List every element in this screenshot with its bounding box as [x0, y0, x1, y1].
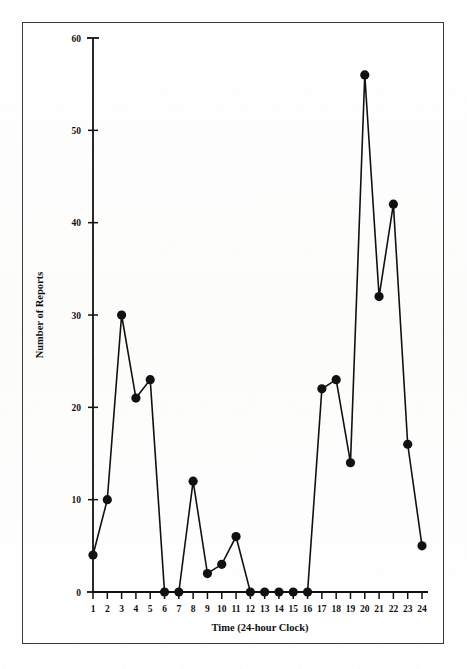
data-point-hour-23 — [403, 440, 412, 449]
y-tick-label-0: 0 — [76, 588, 81, 598]
data-point-hour-7 — [174, 587, 183, 596]
x-tick-label-12: 12 — [246, 604, 256, 614]
x-tick-label-18: 18 — [331, 604, 341, 614]
x-tick-label-8: 8 — [191, 604, 196, 614]
x-tick-label-6: 6 — [162, 604, 167, 614]
x-tick-label-9: 9 — [205, 604, 210, 614]
x-tick-label-23: 23 — [403, 604, 413, 614]
x-tick-label-21: 21 — [374, 604, 384, 614]
data-point-hour-8 — [189, 477, 198, 486]
x-tick-label-17: 17 — [317, 604, 327, 614]
data-point-hour-6 — [160, 587, 169, 596]
data-series-line — [93, 75, 422, 592]
y-axis-tick-labels: 0102030405060 — [72, 34, 82, 598]
x-tick-label-5: 5 — [148, 604, 153, 614]
data-point-hour-1 — [88, 550, 97, 559]
x-axis-ticks — [93, 592, 422, 599]
data-point-hour-2 — [103, 495, 112, 504]
y-axis-title: Number of Reports — [34, 272, 45, 359]
data-point-hour-11 — [231, 532, 240, 541]
y-tick-label-20: 20 — [72, 403, 82, 413]
x-tick-label-4: 4 — [134, 604, 139, 614]
x-tick-label-10: 10 — [217, 604, 227, 614]
data-point-hour-22 — [389, 200, 398, 209]
data-point-hour-15 — [289, 587, 298, 596]
x-tick-label-20: 20 — [360, 604, 370, 614]
data-point-hour-17 — [317, 384, 326, 393]
data-point-markers — [88, 70, 426, 596]
y-tick-label-30: 30 — [72, 311, 82, 321]
data-point-hour-12 — [246, 587, 255, 596]
y-tick-label-40: 40 — [72, 218, 82, 228]
data-point-hour-13 — [260, 587, 269, 596]
figure-container: 0102030405060 12345678910111213141516171… — [0, 0, 467, 669]
data-point-hour-21 — [374, 292, 383, 301]
data-point-hour-3 — [117, 310, 126, 319]
data-point-hour-4 — [131, 394, 140, 403]
x-tick-label-13: 13 — [260, 604, 270, 614]
x-tick-label-2: 2 — [105, 604, 110, 614]
x-tick-label-3: 3 — [119, 604, 124, 614]
x-tick-label-15: 15 — [289, 604, 299, 614]
x-tick-label-19: 19 — [346, 604, 356, 614]
data-point-hour-14 — [274, 587, 283, 596]
y-tick-label-60: 60 — [72, 34, 82, 44]
data-point-hour-9 — [203, 569, 212, 578]
data-point-hour-19 — [346, 458, 355, 467]
data-point-hour-16 — [303, 587, 312, 596]
data-point-hour-5 — [146, 375, 155, 384]
y-tick-label-10: 10 — [72, 495, 82, 505]
line-chart: 0102030405060 12345678910111213141516171… — [0, 0, 467, 669]
x-tick-label-22: 22 — [389, 604, 399, 614]
data-point-hour-20 — [360, 70, 369, 79]
data-point-hour-18 — [332, 375, 341, 384]
x-tick-label-24: 24 — [417, 604, 427, 614]
x-axis-tick-labels: 123456789101112131415161718192021222324 — [91, 604, 427, 614]
y-tick-label-50: 50 — [72, 126, 82, 136]
x-axis-title: Time (24-hour Clock) — [211, 622, 309, 634]
x-tick-label-1: 1 — [91, 604, 96, 614]
x-tick-label-11: 11 — [232, 604, 241, 614]
data-point-hour-24 — [417, 541, 426, 550]
x-tick-label-16: 16 — [303, 604, 313, 614]
x-tick-label-7: 7 — [176, 604, 181, 614]
x-tick-label-14: 14 — [274, 604, 284, 614]
data-point-hour-10 — [217, 560, 226, 569]
